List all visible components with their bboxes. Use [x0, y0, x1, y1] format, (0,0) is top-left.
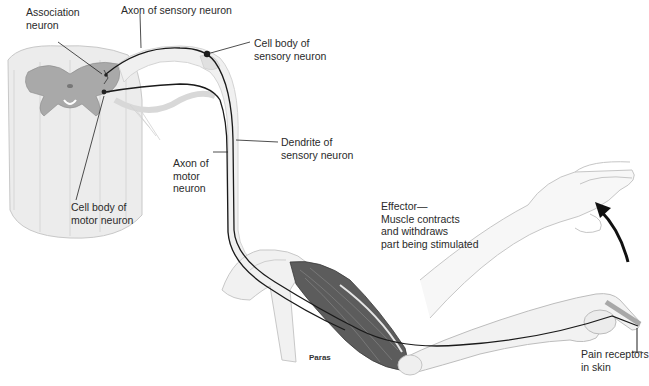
label-axon-motor: Axon of motor neuron [173, 157, 209, 195]
withdrawal-arrow-icon [595, 202, 628, 262]
label-association-neuron: Association neuron [26, 6, 80, 31]
label-pain-receptors: Pain receptors in skin [581, 348, 649, 373]
label-dendrite-sensory: Dendrite of sensory neuron [281, 136, 353, 161]
label-axon-sensory: Axon of sensory neuron [121, 4, 232, 17]
artist-credit: Paras [309, 353, 331, 362]
cell-body-motor [102, 90, 107, 95]
label-effector: Effector— Muscle contracts and withdraws… [381, 200, 478, 250]
label-cell-body-sensory: Cell body of sensory neuron [254, 37, 326, 62]
biceps-muscle [290, 261, 407, 370]
label-cell-body-motor: Cell body of motor neuron [71, 201, 133, 226]
